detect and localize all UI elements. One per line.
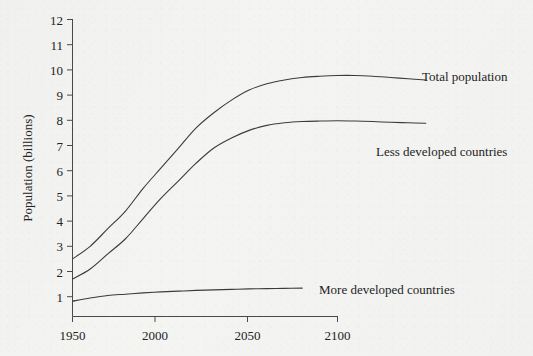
x-tick-label: 2050 xyxy=(235,328,261,343)
y-axis-tick-labels: 12 11 10 9 8 7 6 5 4 3 2 1 xyxy=(50,13,64,305)
curve-less-developed-countries xyxy=(73,121,426,279)
y-tick-label: 3 xyxy=(57,239,64,254)
x-tick-label: 2100 xyxy=(325,328,351,343)
y-tick-label: 7 xyxy=(57,139,64,154)
y-tick-label: 8 xyxy=(57,113,64,128)
y-tick-label: 1 xyxy=(57,290,64,305)
y-tick-label: 6 xyxy=(57,164,64,179)
population-projection-figure: 12 11 10 9 8 7 6 5 4 3 2 1 1950 2000 205… xyxy=(0,0,533,356)
y-tick-label: 2 xyxy=(57,265,64,280)
x-tick-label: 1950 xyxy=(60,328,86,343)
series-label-more-developed-countries: More developed countries xyxy=(319,282,455,297)
curve-total-population xyxy=(73,75,426,259)
y-tick-label: 11 xyxy=(50,38,63,53)
y-tick-label: 12 xyxy=(50,13,63,28)
x-axis-tick-labels: 1950 2000 2050 2100 xyxy=(60,328,351,343)
series-label-less-developed-countries: Less developed countries xyxy=(376,144,507,159)
y-axis-title: Population (billions) xyxy=(20,114,35,221)
y-tick-label: 9 xyxy=(57,88,64,103)
y-axis-ticks xyxy=(67,20,73,297)
line-chart-canvas: 12 11 10 9 8 7 6 5 4 3 2 1 1950 2000 205… xyxy=(0,0,533,356)
x-axis-ticks xyxy=(73,317,338,323)
y-tick-label: 10 xyxy=(50,63,63,78)
series-label-total-population: Total population xyxy=(422,69,508,84)
curve-more-developed-countries xyxy=(73,288,303,301)
y-tick-label: 4 xyxy=(57,214,64,229)
y-tick-label: 5 xyxy=(57,189,64,204)
x-tick-label: 2000 xyxy=(142,328,168,343)
